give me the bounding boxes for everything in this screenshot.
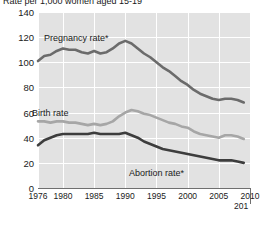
series-label-pregnancy: Pregnancy rate* [44, 33, 109, 43]
series-line-pregnancyrate [38, 41, 244, 103]
series-label-abortion: Abortion rate* [129, 168, 184, 178]
series-label-birth: Birth rate [32, 108, 69, 118]
chart-container: Rate per 1,000 women aged 15-19 14012010… [0, 0, 266, 227]
